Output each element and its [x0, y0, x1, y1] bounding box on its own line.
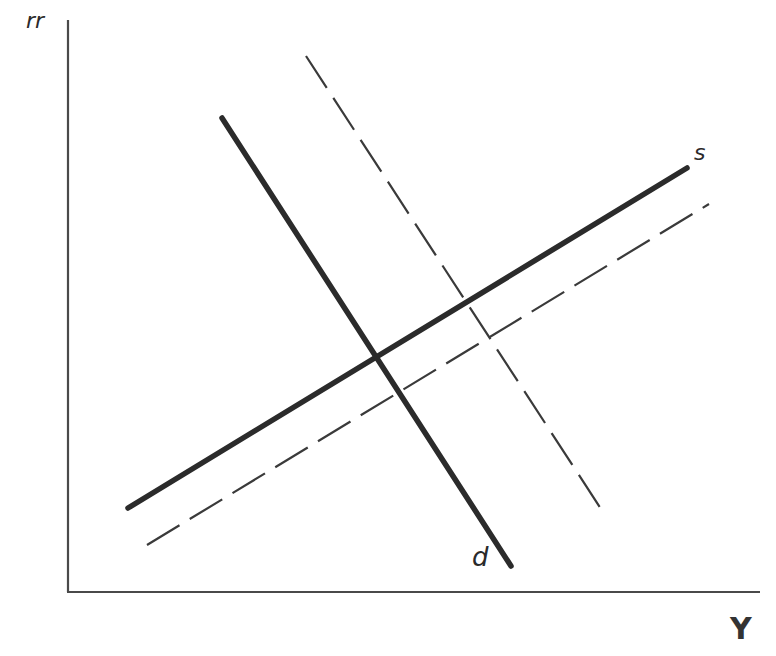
y-axis-label: rr [26, 10, 44, 32]
shifted-demand-curve [306, 56, 603, 512]
x-axis-label: Y [730, 614, 752, 644]
demand-curve [222, 118, 511, 566]
diagram-canvas [0, 0, 776, 656]
demand-curve-label: d [472, 544, 489, 570]
supply-curve-label: s [694, 142, 705, 164]
shifted-supply-curve [147, 204, 709, 545]
supply-curve [128, 168, 687, 508]
